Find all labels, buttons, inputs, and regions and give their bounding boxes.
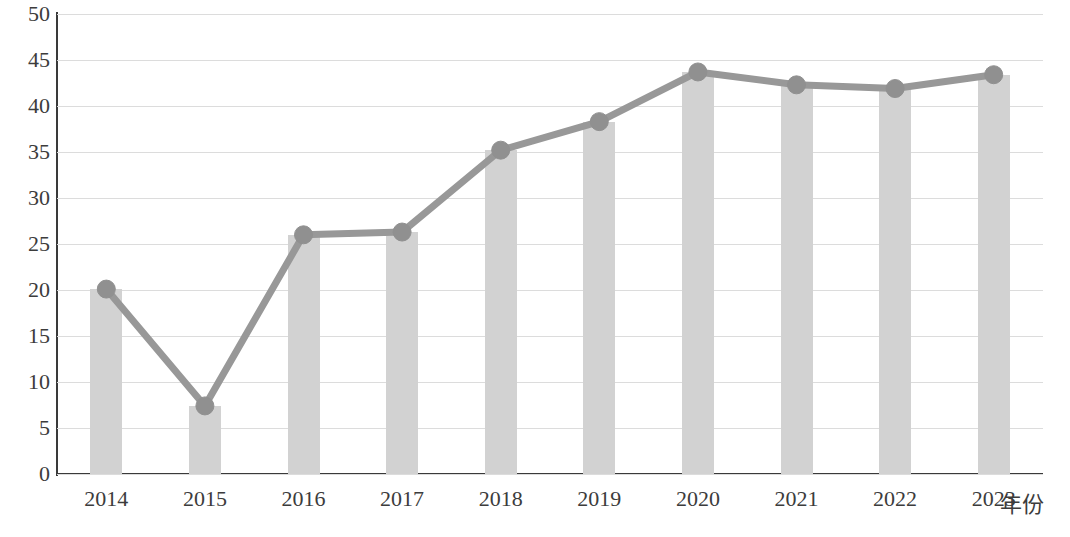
x-axis-tick-label: 2015 [183, 486, 227, 512]
y-axis-tick-label: 10 [6, 371, 50, 393]
x-axis-tick-label: 2016 [282, 486, 326, 512]
y-axis-tick-label: 35 [6, 141, 50, 163]
line-series [57, 14, 1043, 474]
y-axis-tick-label: 15 [6, 325, 50, 347]
gridline [57, 474, 1043, 475]
data-point-marker [492, 141, 510, 159]
data-point-marker [97, 280, 115, 298]
y-axis-tick-label: 0 [6, 463, 50, 485]
data-point-marker [590, 113, 608, 131]
y-axis-tick-labels: 05101520253035404550 [0, 14, 50, 474]
y-axis-tick-label: 25 [6, 233, 50, 255]
x-axis-title: 年份 [1000, 486, 1044, 518]
data-point-marker [196, 397, 214, 415]
data-point-marker [886, 80, 904, 98]
x-axis-tick-label: 2017 [380, 486, 424, 512]
y-axis-tick-label: 45 [6, 49, 50, 71]
x-axis-tick-label: 2019 [577, 486, 621, 512]
data-point-marker [393, 223, 411, 241]
y-axis-tick-label: 30 [6, 187, 50, 209]
y-axis-tick-label: 20 [6, 279, 50, 301]
line-path [106, 72, 993, 406]
data-point-marker [985, 66, 1003, 84]
y-axis-tick-label: 5 [6, 417, 50, 439]
y-axis-tick-label: 40 [6, 95, 50, 117]
data-point-marker [689, 63, 707, 81]
x-axis-tick-label: 2022 [873, 486, 917, 512]
y-axis-tick-label: 50 [6, 3, 50, 25]
data-point-marker [295, 226, 313, 244]
x-axis-tick-label: 2020 [676, 486, 720, 512]
plot-area [57, 14, 1043, 474]
x-axis-tick-label: 2021 [775, 486, 819, 512]
chart-container: 05101520253035404550 2014201520162017201… [0, 0, 1070, 537]
data-point-marker [788, 76, 806, 94]
x-axis-tick-label: 2014 [84, 486, 128, 512]
x-axis-tick-label: 2018 [479, 486, 523, 512]
